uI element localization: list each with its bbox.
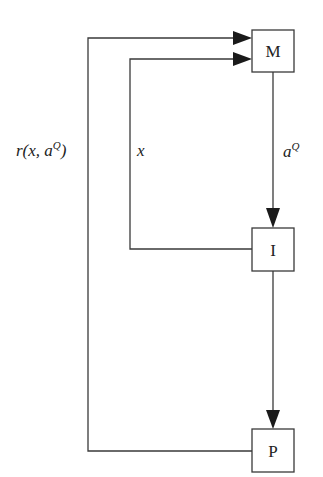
- edge-p-to-m-line: [88, 38, 252, 451]
- node-i: I: [252, 228, 294, 271]
- label-x: x: [136, 141, 145, 160]
- node-m-label: M: [265, 42, 280, 61]
- edge-i-to-m-line: [130, 59, 252, 249]
- label-action: aQ: [283, 140, 300, 161]
- label-reward-tail: ): [60, 141, 67, 160]
- arrowhead-right-icon: [233, 52, 252, 66]
- edge-p-to-m: [88, 31, 252, 451]
- label-reward-sup: Q: [53, 139, 61, 151]
- label-reward: r(x, aQ): [16, 139, 67, 160]
- arrowhead-right-icon: [233, 31, 252, 45]
- edge-i-to-p: [266, 271, 280, 429]
- diagram-canvas: M I P r(x, aQ) x aQ: [0, 0, 323, 477]
- edge-m-to-i: [266, 72, 280, 228]
- arrowhead-down-icon: [266, 208, 280, 228]
- node-p-label: P: [268, 442, 277, 461]
- edge-i-to-m: [130, 52, 252, 249]
- node-i-label: I: [270, 241, 276, 260]
- label-reward-base: r(x, a: [16, 141, 53, 160]
- arrowhead-down-icon: [266, 410, 280, 429]
- label-action-base: a: [283, 142, 292, 161]
- node-m: M: [252, 30, 294, 72]
- node-p: P: [252, 429, 294, 472]
- label-action-sup: Q: [292, 140, 300, 152]
- flow-diagram: M I P r(x, aQ) x aQ: [0, 0, 323, 477]
